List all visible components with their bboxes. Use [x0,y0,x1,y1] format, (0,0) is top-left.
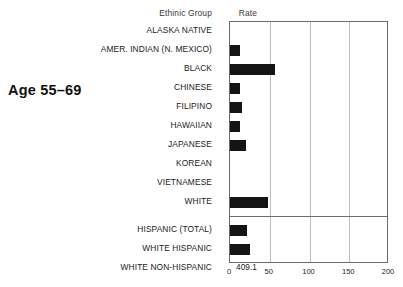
column-header-rate: Rate [0,8,257,18]
rate-value: 576.4 [0,59,257,78]
rate-suppressed-marker: ∗ [0,154,257,173]
bar-row [230,22,387,41]
bar [230,197,268,208]
bar-row [230,79,387,98]
group-separator-line [230,216,387,217]
rate-value: 242.8 [0,220,257,239]
rate-value: 409.1 [0,258,257,277]
bar-row [230,98,387,117]
bar [230,64,275,75]
bar [230,83,240,94]
bar-series [230,22,387,262]
bar-row [230,174,387,193]
rate-value: 251.2 [0,239,257,258]
x-axis-tick-label: 0 [227,267,231,276]
rate-suppressed-marker: ∗ [0,21,257,40]
x-axis-tick-label: 150 [342,267,355,276]
bar [230,45,240,56]
bar-row [230,60,387,79]
x-axis-ticks: 050100150200 [229,264,388,280]
x-axis-tick-label: 50 [265,267,273,276]
bar [230,225,247,236]
rate-value: 131.7 [0,40,257,59]
bar [230,102,242,113]
bar [230,121,240,132]
bar-row [230,41,387,60]
rate-value: 105.7 [0,78,257,97]
bar [230,140,246,151]
chart-figure: Age 55–69 Ethinic Group Rate ALASKA NATI… [0,0,403,287]
bar-row [230,240,387,259]
plot-area [229,21,388,263]
rate-suppressed-marker: ∗ [0,173,257,192]
bar-row [230,155,387,174]
x-axis-tick-label: 200 [382,267,395,276]
bar-row [230,136,387,155]
bar-row [230,193,387,212]
rate-value: 1395.8 [0,192,257,211]
rate-value: 151.7 [0,97,257,116]
bar [230,244,250,255]
rate-group-gap [0,211,257,220]
bar-row [230,259,387,263]
bar-row [230,221,387,240]
bar-row [230,117,387,136]
x-axis-tick-label: 100 [302,267,315,276]
rate-value: 203.1 [0,135,257,154]
rate-value: 143.1 [0,116,257,135]
rate-value-column: ∗131.7576.4105.7151.7143.1203.1∗∗1395.82… [0,21,257,277]
